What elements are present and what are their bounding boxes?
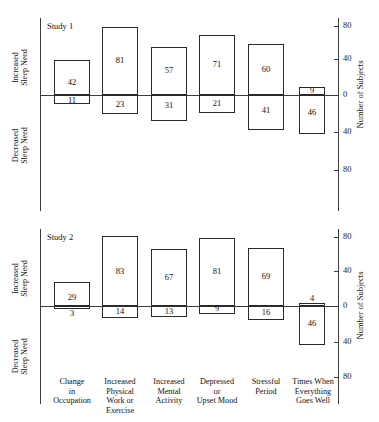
bar-value-down-1: 11: [54, 96, 90, 105]
bar-value-up-2: 81: [102, 56, 138, 65]
panel-study-1: Study 1 Increased Sleep Need Decreased S…: [0, 0, 379, 211]
study-2-label: Study 2: [47, 233, 73, 242]
category-label-6-line1: Times When: [281, 377, 345, 387]
axis-label-sleep-need-upper-2: Sleep Need: [20, 250, 29, 308]
tick-40-upper: [334, 59, 339, 60]
bar-value-down-6: 46: [296, 108, 328, 117]
bar-value-up-2-s2: 83: [102, 267, 138, 276]
bar-value-up-1-s2: 29: [54, 293, 90, 302]
axis-label-decreased-1: Decreased: [11, 117, 20, 175]
axis-label-sleep-need-lower-2: Sleep Need: [20, 328, 29, 386]
axis-label-sleep-need-upper-text-2: Sleep Need: [20, 260, 29, 297]
axis-label-increased-text-2: Increased: [11, 263, 20, 294]
right-axis-title-2: Number of Subjects: [356, 266, 365, 346]
bar-value-down-4-s2: 9: [199, 304, 235, 313]
axis-label-sleep-need-lower-text-2: Sleep Need: [20, 338, 29, 375]
category-label-4-line3: Upset Mood: [184, 396, 250, 406]
tick-80-upper: [334, 26, 339, 27]
axis-label-sleep-need-upper-text: Sleep Need: [20, 49, 29, 86]
category-label-6: Times When Everything Goes Well: [281, 377, 345, 406]
tick-label-0: 0: [343, 90, 347, 99]
axis-label-sleep-need-lower-text: Sleep Need: [20, 127, 29, 164]
bar-value-up-5-s2: 69: [248, 272, 284, 281]
sleep-need-figure: Study 1 Increased Sleep Need Decreased S…: [0, 0, 379, 422]
bar-value-down-1-s2: 3: [54, 309, 90, 318]
tick-0: [334, 95, 339, 96]
bar-value-down-2: 23: [102, 100, 138, 109]
bar-value-down-5-s2: 16: [248, 308, 284, 317]
axis-label-increased-1: Increased: [11, 39, 20, 97]
category-label-2-line4: Exercise: [88, 406, 152, 416]
tick-80-lower: [334, 170, 339, 171]
bar-value-down-5: 41: [248, 106, 284, 115]
tick-label-80-upper: 80: [343, 21, 352, 30]
tick-label-40-lower: 40: [343, 127, 352, 136]
bar-value-up-4: 71: [199, 60, 235, 69]
left-axis-line: [40, 18, 41, 211]
tick-80-upper-2: [334, 237, 339, 238]
bar-value-up-4-s2: 81: [199, 267, 235, 276]
tick-40-lower-2: [334, 342, 339, 343]
category-label-6-line3: Goes Well: [281, 396, 345, 406]
axis-label-decreased-text: Decreased: [11, 129, 20, 162]
study-1-label: Study 1: [47, 22, 73, 31]
bar-value-down-3: 31: [151, 101, 187, 110]
bar-value-down-3-s2: 13: [151, 307, 187, 316]
category-label-6-line2: Everything: [281, 387, 345, 397]
bar-value-up-6-s2: 4: [296, 294, 328, 303]
tick-40-upper-2: [334, 271, 339, 272]
bar-value-up-3-s2: 67: [151, 273, 187, 282]
right-axis-line: [338, 18, 339, 211]
tick-40-lower: [334, 132, 339, 133]
tick-label-0-2: 0: [343, 301, 347, 310]
tick-label-40-upper-2: 40: [343, 266, 352, 275]
bar-value-up-3: 57: [151, 66, 187, 75]
bar-value-down-6-s2: 46: [296, 319, 328, 328]
panel-study-2: Study 2 Increased Sleep Need Decreased S…: [0, 211, 379, 422]
axis-label-sleep-need-upper: Sleep Need: [20, 39, 29, 97]
right-axis-title: Number of Subjects: [356, 55, 365, 135]
tick-label-40-upper: 40: [343, 54, 352, 63]
axis-label-decreased-2: Decreased: [11, 328, 20, 386]
axis-label-increased-text: Increased: [11, 52, 20, 83]
tick-0-2: [334, 306, 339, 307]
bar-value-up-6: 9: [296, 86, 328, 95]
bar-value-up-1: 42: [54, 78, 90, 87]
tick-label-80-lower: 80: [343, 165, 352, 174]
axis-label-increased-2: Increased: [11, 250, 20, 308]
tick-label-80-upper-2: 80: [343, 232, 352, 241]
axis-label-decreased-text-2: Decreased: [11, 340, 20, 373]
bar-value-down-4: 21: [199, 99, 235, 108]
axis-label-sleep-need-lower: Sleep Need: [20, 117, 29, 175]
bar-value-up-5: 60: [248, 65, 284, 74]
bar-value-down-2-s2: 14: [102, 307, 138, 316]
tick-label-40-lower-2: 40: [343, 337, 352, 346]
